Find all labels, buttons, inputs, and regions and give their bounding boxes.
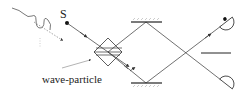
mirror-bottom-icon [131, 83, 162, 87]
lower-arm-beam [108, 52, 146, 83]
source-label: S [60, 7, 67, 21]
detector-top-icon [217, 13, 237, 33]
interferometer-diagram: S wave-particle [0, 0, 241, 98]
mirror-top-icon [131, 18, 162, 22]
upper-arm-beam [108, 22, 146, 52]
label-pointer [62, 60, 90, 68]
beam-splitter-label: wave-particle [42, 73, 102, 85]
photon-wave-icon [12, 8, 62, 48]
upper-cross-beam [146, 22, 221, 80]
detector-bottom-icon [220, 73, 238, 89]
